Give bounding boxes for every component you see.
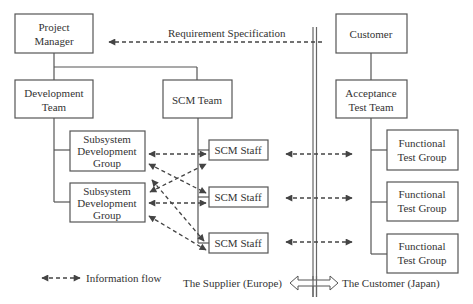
node-acceptance-test-team: Acceptance Test Team	[336, 80, 407, 118]
svg-text:Customer: Customer	[350, 28, 393, 40]
node-functional-test-group-3: Functional Test Group	[387, 234, 458, 273]
supplier-label: The Supplier (Europe)	[183, 277, 282, 290]
node-development-team: Development Team	[15, 80, 93, 118]
node-functional-test-group-1: Functional Test Group	[387, 130, 458, 170]
svg-text:Group: Group	[93, 157, 122, 169]
requirement-specification-flow: Requirement Specification	[109, 27, 322, 42]
svg-text:Manager: Manager	[34, 35, 73, 47]
node-subsystem-development-group-1: Subsystem Development Group	[70, 131, 145, 171]
svg-text:Functional: Functional	[398, 240, 445, 252]
boundary-labels: The Supplier (Europe) The Customer (Japa…	[183, 276, 440, 297]
svg-text:Test Group: Test Group	[397, 151, 447, 163]
node-customer: Customer	[336, 14, 407, 53]
svg-text:Functional: Functional	[398, 137, 445, 149]
svg-text:Test Team: Test Team	[349, 101, 394, 113]
node-scm-staff-2: SCM Staff	[209, 187, 268, 207]
node-subsystem-development-group-2: Subsystem Development Group	[70, 183, 145, 222]
svg-text:Development: Development	[77, 145, 136, 157]
legend-label: Information flow	[86, 272, 162, 284]
svg-text:Team: Team	[42, 101, 67, 113]
svg-text:SCM Staff: SCM Staff	[214, 237, 262, 249]
svg-text:Group: Group	[93, 209, 122, 221]
node-scm-staff-3: SCM Staff	[209, 233, 268, 253]
legend-information-flow: Information flow	[42, 272, 162, 284]
svg-text:Project: Project	[38, 21, 69, 33]
svg-text:Development: Development	[24, 87, 83, 99]
svg-text:Acceptance: Acceptance	[345, 87, 396, 99]
node-project-manager: Project Manager	[15, 14, 93, 53]
svg-text:Functional: Functional	[398, 188, 445, 200]
svg-text:Test Group: Test Group	[397, 202, 447, 214]
svg-text:Subsystem: Subsystem	[83, 133, 131, 145]
node-scm-staff-1: SCM Staff	[209, 140, 268, 160]
svg-text:Subsystem: Subsystem	[83, 185, 131, 197]
svg-text:SCM Staff: SCM Staff	[214, 144, 262, 156]
supplier-customer-boundary	[313, 27, 317, 297]
svg-text:Development: Development	[77, 197, 136, 209]
requirement-specification-label: Requirement Specification	[168, 27, 286, 39]
svg-text:SCM Staff: SCM Staff	[214, 191, 262, 203]
node-functional-test-group-2: Functional Test Group	[387, 182, 458, 221]
hollow-double-arrow-icon	[290, 276, 338, 290]
svg-text:Test Group: Test Group	[397, 254, 447, 266]
svg-text:SCM Team: SCM Team	[172, 94, 223, 106]
customer-label: The Customer (Japan)	[342, 277, 440, 290]
diagram-canvas: Requirement Specification Project Manage…	[0, 0, 473, 304]
node-scm-team: SCM Team	[163, 80, 232, 118]
cross-boundary-flow-arrows	[286, 154, 352, 242]
